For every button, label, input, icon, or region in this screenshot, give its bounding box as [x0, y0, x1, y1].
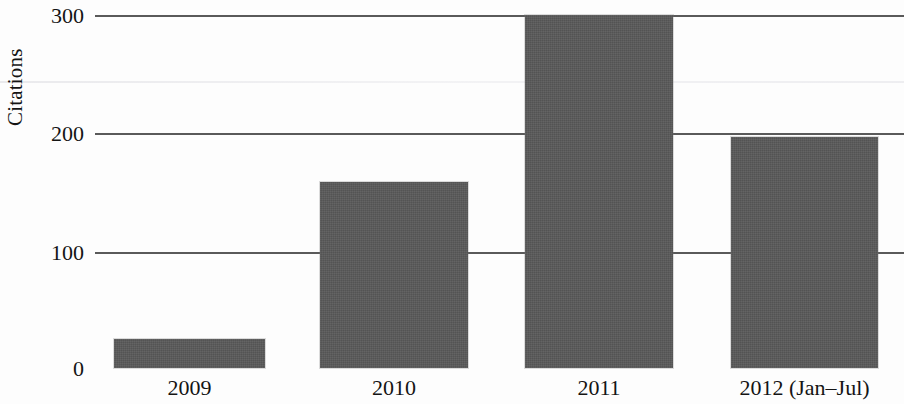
citations-bar-chart: Citations 300 200 100 0 2009 2010 2011 2…	[0, 0, 904, 404]
bar-2012[interactable]	[731, 137, 878, 368]
x-tick-label-2012: 2012 (Jan–Jul)	[716, 375, 893, 401]
x-tick-label-2010: 2010	[320, 375, 468, 401]
bar-2009[interactable]	[114, 339, 265, 368]
x-tick-label-2011: 2011	[525, 375, 673, 401]
bar-2011[interactable]	[525, 15, 673, 368]
x-tick-label-2009: 2009	[114, 375, 265, 401]
plot-area	[0, 0, 904, 368]
bar-2010[interactable]	[320, 182, 468, 368]
x-axis-tick-labels: 2009 2010 2011 2012 (Jan–Jul)	[0, 368, 904, 404]
